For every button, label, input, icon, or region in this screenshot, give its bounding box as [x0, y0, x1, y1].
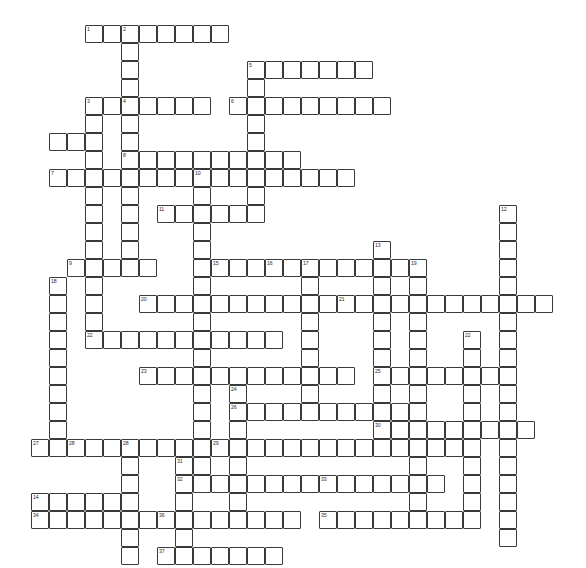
grid-cell-c12-r11[interactable]: [229, 205, 247, 223]
grid-cell-c3-r9[interactable]: [67, 169, 85, 187]
grid-cell-c22-r21[interactable]: [409, 385, 427, 403]
grid-cell-c14-r26[interactable]: [265, 475, 283, 493]
grid-cell-c19-r22[interactable]: [355, 403, 373, 421]
grid-cell-c20-r22[interactable]: [373, 403, 391, 421]
grid-cell-c6-r8[interactable]: 8: [121, 151, 139, 169]
grid-cell-c18-r14[interactable]: [337, 259, 355, 277]
grid-cell-c7-r9[interactable]: [139, 169, 157, 187]
grid-cell-c10-r21[interactable]: [193, 385, 211, 403]
grid-cell-c6-r7[interactable]: [121, 133, 139, 151]
grid-cell-c24-r24[interactable]: [445, 439, 463, 457]
grid-cell-c20-r16[interactable]: [373, 295, 391, 313]
grid-cell-c16-r5[interactable]: [301, 97, 319, 115]
grid-cell-c20-r21[interactable]: [373, 385, 391, 403]
grid-cell-c22-r20[interactable]: [409, 367, 427, 385]
grid-cell-c16-r20[interactable]: [301, 367, 319, 385]
grid-cell-c13-r11[interactable]: [247, 205, 265, 223]
grid-cell-c4-r9[interactable]: [85, 169, 103, 187]
grid-cell-c27-r17[interactable]: [499, 313, 517, 331]
grid-cell-c15-r5[interactable]: [283, 97, 301, 115]
grid-cell-c18-r3[interactable]: [337, 61, 355, 79]
grid-cell-c27-r23[interactable]: [499, 421, 517, 439]
grid-cell-c13-r8[interactable]: [247, 151, 265, 169]
grid-cell-c14-r9[interactable]: [265, 169, 283, 187]
grid-cell-c8-r9[interactable]: [157, 169, 175, 187]
grid-cell-c4-r16[interactable]: [85, 295, 103, 313]
grid-cell-c6-r10[interactable]: [121, 187, 139, 205]
grid-cell-c16-r19[interactable]: [301, 349, 319, 367]
grid-cell-c22-r23[interactable]: [409, 421, 427, 439]
grid-cell-c12-r25[interactable]: [229, 457, 247, 475]
grid-cell-c11-r16[interactable]: [211, 295, 229, 313]
grid-cell-c13-r24[interactable]: [247, 439, 265, 457]
grid-cell-c6-r24[interactable]: 28: [121, 439, 139, 457]
grid-cell-c21-r24[interactable]: [391, 439, 409, 457]
grid-cell-c10-r22[interactable]: [193, 403, 211, 421]
grid-cell-c22-r28[interactable]: [409, 511, 427, 529]
grid-cell-c22-r14[interactable]: 19: [409, 259, 427, 277]
grid-cell-c20-r19[interactable]: [373, 349, 391, 367]
grid-cell-c18-r20[interactable]: [337, 367, 355, 385]
grid-cell-c23-r24[interactable]: [427, 439, 445, 457]
grid-cell-c21-r20[interactable]: [391, 367, 409, 385]
grid-cell-c2-r15[interactable]: 18: [49, 277, 67, 295]
grid-cell-c12-r9[interactable]: [229, 169, 247, 187]
grid-cell-c2-r19[interactable]: [49, 349, 67, 367]
grid-cell-c4-r1[interactable]: 1: [85, 25, 103, 43]
grid-cell-c17-r9[interactable]: [319, 169, 337, 187]
grid-cell-c2-r23[interactable]: [49, 421, 67, 439]
grid-cell-c4-r15[interactable]: [85, 277, 103, 295]
grid-cell-c19-r24[interactable]: [355, 439, 373, 457]
grid-cell-c16-r24[interactable]: [301, 439, 319, 457]
grid-cell-c18-r22[interactable]: [337, 403, 355, 421]
grid-cell-c13-r5[interactable]: [247, 97, 265, 115]
grid-cell-c14-r30[interactable]: [265, 547, 283, 565]
grid-cell-c6-r4[interactable]: [121, 79, 139, 97]
grid-cell-c9-r18[interactable]: [175, 331, 193, 349]
grid-cell-c19-r14[interactable]: [355, 259, 373, 277]
grid-cell-c13-r30[interactable]: [247, 547, 265, 565]
grid-cell-c10-r25[interactable]: [193, 457, 211, 475]
grid-cell-c13-r6[interactable]: [247, 115, 265, 133]
grid-cell-c23-r28[interactable]: [427, 511, 445, 529]
grid-cell-c3-r28[interactable]: [67, 511, 85, 529]
grid-cell-c13-r7[interactable]: [247, 133, 265, 151]
grid-cell-c4-r24[interactable]: [85, 439, 103, 457]
grid-cell-c27-r27[interactable]: [499, 493, 517, 511]
grid-cell-c12-r30[interactable]: [229, 547, 247, 565]
grid-cell-c16-r15[interactable]: [301, 277, 319, 295]
grid-cell-c13-r9[interactable]: [247, 169, 265, 187]
grid-cell-c20-r15[interactable]: [373, 277, 391, 295]
grid-cell-c25-r25[interactable]: [463, 457, 481, 475]
grid-cell-c9-r5[interactable]: [175, 97, 193, 115]
grid-cell-c2-r17[interactable]: [49, 313, 67, 331]
grid-cell-c2-r20[interactable]: [49, 367, 67, 385]
grid-cell-c7-r18[interactable]: [139, 331, 157, 349]
grid-cell-c10-r13[interactable]: [193, 241, 211, 259]
grid-cell-c4-r28[interactable]: [85, 511, 103, 529]
grid-cell-c10-r1[interactable]: [193, 25, 211, 43]
grid-cell-c21-r14[interactable]: [391, 259, 409, 277]
grid-cell-c10-r17[interactable]: [193, 313, 211, 331]
grid-cell-c5-r27[interactable]: [103, 493, 121, 511]
grid-cell-c10-r8[interactable]: [193, 151, 211, 169]
grid-cell-c22-r27[interactable]: [409, 493, 427, 511]
grid-cell-c14-r14[interactable]: 16: [265, 259, 283, 277]
grid-cell-c2-r21[interactable]: [49, 385, 67, 403]
grid-cell-c7-r1[interactable]: [139, 25, 157, 43]
grid-cell-c13-r20[interactable]: [247, 367, 265, 385]
grid-cell-c12-r8[interactable]: [229, 151, 247, 169]
grid-cell-c13-r22[interactable]: [247, 403, 265, 421]
grid-cell-c24-r28[interactable]: [445, 511, 463, 529]
grid-cell-c15-r3[interactable]: [283, 61, 301, 79]
grid-cell-c15-r16[interactable]: [283, 295, 301, 313]
grid-cell-c22-r16[interactable]: [409, 295, 427, 313]
grid-cell-c2-r18[interactable]: [49, 331, 67, 349]
grid-cell-c25-r21[interactable]: [463, 385, 481, 403]
grid-cell-c16-r18[interactable]: [301, 331, 319, 349]
grid-cell-c14-r8[interactable]: [265, 151, 283, 169]
grid-cell-c14-r3[interactable]: [265, 61, 283, 79]
grid-cell-c6-r2[interactable]: [121, 43, 139, 61]
grid-cell-c18-r24[interactable]: [337, 439, 355, 457]
grid-cell-c10-r24[interactable]: [193, 439, 211, 457]
